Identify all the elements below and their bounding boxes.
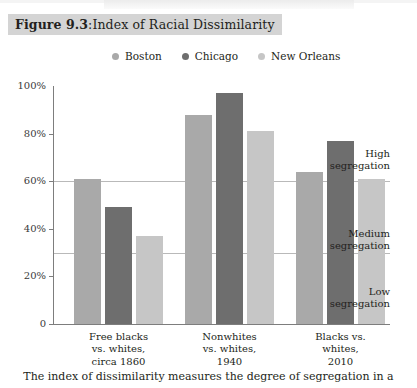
annotation-medium-segregation: Mediumsegregation [294,228,390,253]
x-axis-group-label-line: circa 1860 [59,356,179,368]
bar-chicago-group-1 [105,207,132,324]
y-tick-label: 40% [4,224,46,234]
y-tick-label-wrap: 20% [0,271,46,281]
y-tick-label-wrap: 100% [0,81,46,91]
x-axis-group-label-line: 1940 [170,356,290,368]
x-axis-group-label-line: whites, [281,343,401,355]
annotation-line: Medium [294,228,390,240]
figure-caption: The index of dissimilarity measures the … [0,369,417,384]
bar-boston-group-1 [74,179,101,324]
annotation-line: Low [294,286,390,298]
annotation-high-segregation: Highsegregation [294,148,390,173]
x-axis-group-label-line: vs. whites, [170,343,290,355]
y-tick-label: 60% [4,176,46,186]
x-axis-group-label: Free blacksvs. whites,circa 1860 [59,331,179,368]
annotation-line: segregation [294,160,390,172]
bar-new-orleans-group-2 [247,131,274,324]
annotation-line: segregation [294,240,390,252]
y-tick-label: 20% [4,271,46,281]
y-tick-label-wrap: 0 [0,319,46,329]
x-axis-group-label-line: Blacks vs. [281,331,401,343]
bar-new-orleans-group-1 [136,236,163,324]
bar-boston-group-2 [185,115,212,324]
y-tick-label-wrap: 40% [0,224,46,234]
y-tick-mark [49,324,54,325]
y-tick-label: 0 [4,319,46,329]
annotation-line: segregation [294,298,390,310]
x-axis-group-label: Blacks vs.whites,2010 [281,331,401,368]
x-axis-group-label-line: Free blacks [59,331,179,343]
chart-plot: 020%40%60%80%100% Free blacksvs. whites,… [0,0,417,388]
x-axis-group-label: Nonwhitesvs. whites,1940 [170,331,290,368]
annotation-low-segregation: Lowsegregation [294,286,390,311]
x-axis-group-label-line: vs. whites, [59,343,179,355]
bar-chicago-group-2 [216,93,243,324]
y-tick-label-wrap: 80% [0,129,46,139]
y-tick-label-wrap: 60% [0,176,46,186]
x-axis-line [53,324,390,325]
x-axis-group-label-line: Nonwhites [170,331,290,343]
x-axis-group-label-line: 2010 [281,356,401,368]
y-tick-label: 100% [4,81,46,91]
y-tick-label: 80% [4,129,46,139]
annotation-line: High [294,148,390,160]
